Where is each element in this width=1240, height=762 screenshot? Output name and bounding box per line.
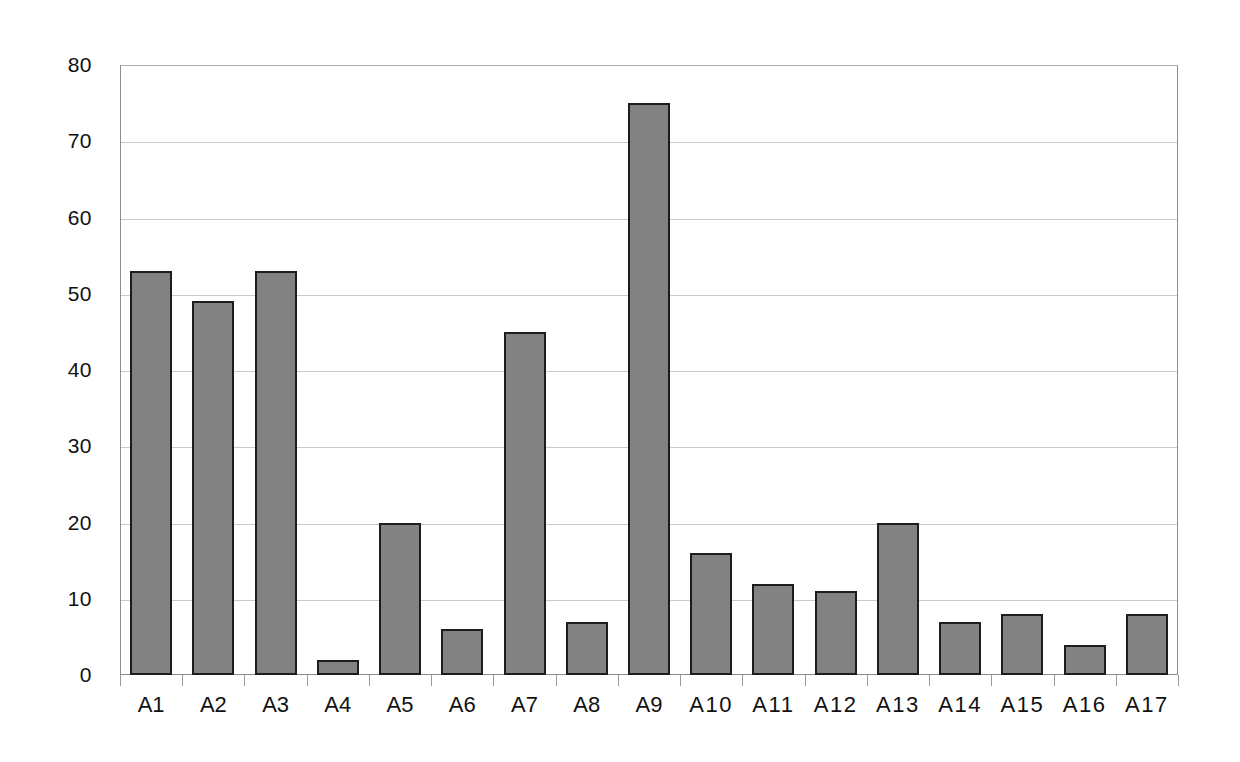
x-axis-tick (244, 675, 245, 686)
bar (255, 271, 297, 675)
bar (192, 301, 234, 675)
bar (628, 103, 670, 675)
y-axis-tick-label: 30 (68, 435, 92, 456)
bar (752, 584, 794, 676)
y-axis-tick-label: 60 (68, 207, 92, 228)
bar-series (120, 65, 1178, 675)
x-axis-tick-label: A4 (307, 692, 369, 718)
bar (939, 622, 981, 675)
x-axis-tick (1116, 675, 1117, 686)
y-axis-tick-label: 40 (68, 359, 92, 380)
chart-title (0, 0, 1, 1)
y-axis-tick-label: 50 (68, 283, 92, 304)
x-axis-tick-label: A14 (929, 692, 991, 718)
bar (504, 332, 546, 675)
x-axis-tick-label: A17 (1116, 692, 1178, 718)
x-axis-tick-label: A7 (493, 692, 555, 718)
x-axis-tick (493, 675, 494, 686)
bar (690, 553, 732, 675)
x-axis-tick (991, 675, 992, 686)
x-axis-tick (618, 675, 619, 686)
x-axis-tick (182, 675, 183, 686)
y-axis-tick-label: 0 (80, 664, 92, 685)
chart-x-axis-label (0, 0, 1, 1)
x-axis-tick-label: A6 (431, 692, 493, 718)
y-axis-tick-label: 70 (68, 130, 92, 151)
x-axis-tick (805, 675, 806, 686)
y-axis-tick-label: 80 (68, 54, 92, 75)
bar (1126, 614, 1168, 675)
bar (1064, 645, 1106, 676)
bar (130, 271, 172, 675)
x-axis-tick (742, 675, 743, 686)
x-axis-tick-label: A8 (556, 692, 618, 718)
y-axis-tick-label: 10 (68, 588, 92, 609)
x-axis-tick (120, 675, 121, 686)
y-axis-tick-label: 20 (68, 512, 92, 533)
x-axis-tick-label: A3 (244, 692, 306, 718)
x-axis-tick-label: A13 (867, 692, 929, 718)
bar (441, 629, 483, 675)
x-axis-tick (929, 675, 930, 686)
x-axis-tick (680, 675, 681, 686)
x-axis-tick-label: A1 (120, 692, 182, 718)
bar (379, 523, 421, 676)
x-axis-tick-label: A16 (1054, 692, 1116, 718)
x-axis-tick-label: A2 (182, 692, 244, 718)
bar (815, 591, 857, 675)
x-axis-tick (1054, 675, 1055, 686)
x-axis-tick-label: A5 (369, 692, 431, 718)
x-axis-tick-label: A15 (991, 692, 1053, 718)
bar (566, 622, 608, 675)
x-axis-tick (1178, 675, 1179, 686)
x-axis-tick (307, 675, 308, 686)
x-axis-tick-label: A10 (680, 692, 742, 718)
x-axis-tick (556, 675, 557, 686)
x-axis-tick (369, 675, 370, 686)
x-axis-tick-label: A12 (805, 692, 867, 718)
bar (1001, 614, 1043, 675)
chart-y-axis-label (0, 0, 1, 1)
bar (317, 660, 359, 675)
bar-chart: 01020304050607080 A1A2A3A4A5A6A7A8A9A10A… (0, 0, 1240, 762)
bar (877, 523, 919, 676)
x-axis-tick (431, 675, 432, 686)
x-axis-tick (867, 675, 868, 686)
x-axis-tick-label: A11 (742, 692, 804, 718)
x-axis-tick-label: A9 (618, 692, 680, 718)
